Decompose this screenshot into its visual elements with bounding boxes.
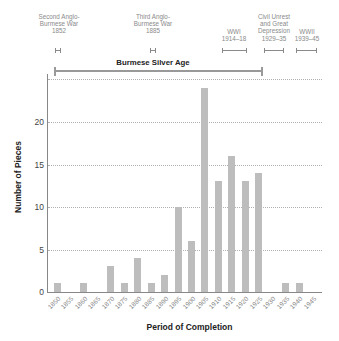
event-third-anglo-burmese-war: Third Anglo- Burmese War 1885 (134, 13, 172, 35)
bar-1940 (296, 283, 303, 292)
event-second-anglo-burmese-war: Second Anglo- Burmese War 1852 (39, 13, 80, 35)
ytick-15: 15 (35, 160, 44, 170)
event-label: Burmese War (134, 20, 172, 27)
event-span-wwii (296, 50, 317, 51)
bar-1850 (54, 283, 61, 292)
event-years: 1885 (134, 27, 172, 34)
ytick-20: 20 (35, 117, 44, 127)
event-wwii: WWII 1939–45 (295, 28, 320, 42)
event-label: Civil Unrest (258, 13, 290, 20)
gridline-10 (48, 207, 322, 208)
y-axis-title: Number of Pieces (13, 137, 23, 217)
bar-1880 (134, 258, 141, 292)
bar-1895 (175, 207, 182, 292)
gridline-25 (48, 79, 322, 80)
event-span-wwi (222, 50, 247, 51)
event-civil-unrest: Civil Unrest and Great Depression 1929–3… (258, 13, 290, 42)
ytick-5: 5 (39, 245, 44, 255)
event-years: 1939–45 (295, 35, 320, 42)
bar-1905 (201, 88, 208, 292)
bar-1920 (242, 181, 249, 292)
bar-1860 (80, 283, 87, 292)
event-label: WWII (295, 28, 320, 35)
gridline-20 (48, 122, 322, 123)
era-title: Burmese Silver Age (116, 58, 189, 67)
event-years: 1852 (39, 27, 80, 34)
event-label: Depression (258, 27, 290, 34)
event-span-1852 (55, 50, 61, 51)
era-span-silver-age (54, 70, 263, 72)
event-years: 1914–18 (222, 35, 247, 42)
bar-1925 (255, 173, 262, 292)
bar-1900 (188, 241, 195, 292)
bar-1910 (215, 181, 222, 292)
event-label: WWI (222, 28, 247, 35)
gridline-15 (48, 165, 322, 166)
ytick-0: 0 (39, 287, 44, 297)
event-years: 1929–35 (258, 35, 290, 42)
bar-1875 (121, 283, 128, 292)
event-span-1885 (150, 50, 156, 51)
ytick-10: 10 (35, 202, 44, 212)
bar-1885 (148, 283, 155, 292)
bar-1915 (228, 156, 235, 292)
y-axis (47, 74, 48, 292)
event-span-civil-unrest (264, 50, 284, 51)
gridline-5 (48, 250, 322, 251)
event-wwi: WWI 1914–18 (222, 28, 247, 42)
event-label: and Great (258, 20, 290, 27)
x-axis (47, 292, 322, 293)
bar-1890 (161, 275, 168, 292)
event-label: Second Anglo- (39, 13, 80, 20)
event-label: Burmese War (39, 20, 80, 27)
bar-1935 (282, 283, 289, 292)
bar-1870 (107, 266, 114, 292)
x-axis-title: Period of Completion (0, 322, 339, 332)
event-label: Third Anglo- (134, 13, 172, 20)
